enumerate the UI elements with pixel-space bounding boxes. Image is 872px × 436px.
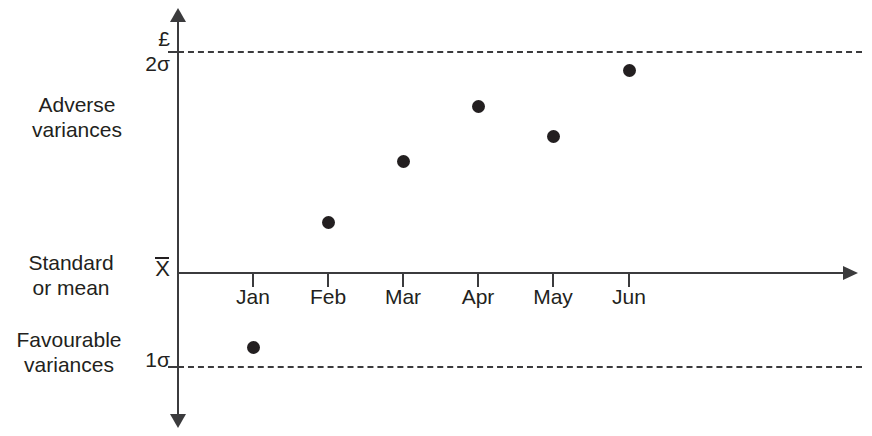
annotation-standard-line1: Standard xyxy=(0,250,146,275)
x-axis-label-feb: Feb xyxy=(288,285,368,309)
y-axis-line xyxy=(177,20,179,418)
annotation-adverse-line1: Adverse xyxy=(2,92,152,117)
annotation-favourable-line2: variances xyxy=(0,352,144,377)
x-axis-mean-line xyxy=(177,272,845,274)
annotation-favourable-variances: Favourable variances xyxy=(0,327,144,377)
data-point xyxy=(547,130,560,143)
upper-limit-label: 2σ xyxy=(124,52,170,76)
y-axis-currency-label: £ xyxy=(130,27,170,51)
annotation-standard-or-mean: Standard or mean xyxy=(0,250,146,300)
data-point xyxy=(247,341,260,354)
annotation-favourable-line1: Favourable xyxy=(0,327,144,352)
data-point xyxy=(397,155,410,168)
data-point xyxy=(322,216,335,229)
annotation-adverse-line2: variances xyxy=(2,117,152,142)
x-bar-glyph: X xyxy=(155,256,170,282)
data-point xyxy=(472,100,485,113)
x-axis-label-jun: Jun xyxy=(589,285,669,309)
x-axis-arrow-right-icon xyxy=(843,266,858,280)
x-axis-label-mar: Mar xyxy=(363,285,443,309)
lower-control-limit-line xyxy=(178,366,862,368)
upper-control-limit-line xyxy=(178,51,862,53)
annotation-standard-line2: or mean xyxy=(0,275,146,300)
data-point xyxy=(623,64,636,77)
y-axis-arrow-down-icon xyxy=(170,414,186,428)
x-axis-label-apr: Apr xyxy=(438,285,518,309)
annotation-adverse-variances: Adverse variances xyxy=(2,92,152,142)
x-axis-label-jan: Jan xyxy=(213,285,293,309)
control-chart-figure: £ 2σ X 1σ Jan Feb Mar Apr May Jun Advers… xyxy=(0,0,872,436)
x-axis-label-may: May xyxy=(513,285,593,309)
